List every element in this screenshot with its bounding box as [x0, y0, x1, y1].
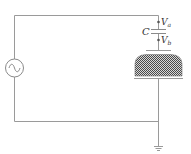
wires	[15, 16, 159, 147]
capacitor-label: C	[142, 26, 150, 37]
ground-icon	[154, 147, 163, 151]
node-a-dot	[157, 21, 160, 24]
ac-source-icon	[6, 59, 24, 77]
hatched-dome-electrode	[135, 55, 182, 77]
node-a-label: Va	[161, 17, 172, 28]
node-b-dot	[157, 39, 160, 42]
circuit-diagram: C Va Vb	[0, 0, 191, 154]
node-b-label: Vb	[161, 35, 172, 46]
capacitor	[151, 30, 166, 34]
